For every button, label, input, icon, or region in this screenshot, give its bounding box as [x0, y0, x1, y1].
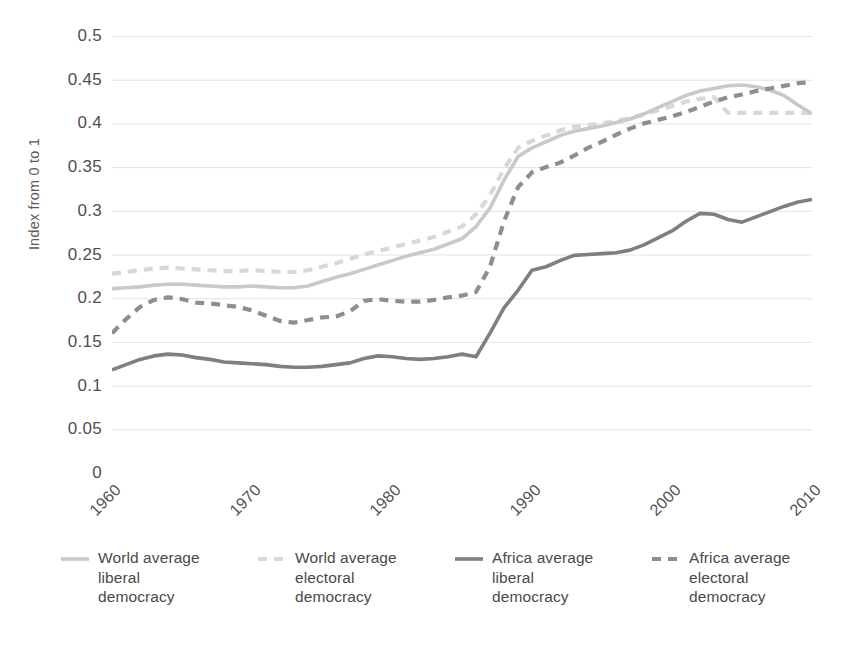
legend-item[interactable]: Africa averageelectoraldemocracy [651, 548, 848, 607]
y-axis-tick-label: 0.45 [40, 70, 102, 90]
y-axis-tick-label: 0 [40, 463, 102, 483]
x-axis-tick-label: 2000 [638, 481, 685, 528]
legend-label-line: democracy [295, 587, 397, 607]
legend-item[interactable]: World averageelectoraldemocracy [257, 548, 454, 607]
y-axis-tick-label: 0.15 [40, 332, 102, 352]
legend-label-line: electoral [295, 568, 397, 588]
legend-label-line: democracy [689, 587, 790, 607]
dashed-line-swatch [651, 550, 681, 568]
x-axis-tick-label: 2010 [778, 481, 825, 528]
legend-label-line: liberal [492, 568, 593, 588]
y-axis-tick-label: 0.25 [40, 245, 102, 265]
y-axis-tick-label: 0.4 [40, 113, 102, 133]
dashed-line-swatch [257, 550, 287, 568]
series-line [112, 85, 812, 289]
plot-area [112, 36, 812, 473]
solid-line-swatch [60, 550, 90, 568]
legend-item[interactable]: World averageliberaldemocracy [60, 548, 257, 607]
y-axis-tick-label: 0.05 [40, 419, 102, 439]
legend-item-label: Africa averageelectoraldemocracy [689, 548, 790, 607]
legend-label-line: World average [295, 548, 397, 568]
legend-label-line: democracy [492, 587, 593, 607]
x-axis-tick-label: 1980 [358, 481, 405, 528]
plot-svg [112, 36, 812, 473]
y-axis-tick-label: 0.5 [40, 26, 102, 46]
legend-label-line: Africa average [689, 548, 790, 568]
chart-container: Index from 0 to 1 00.050.10.150.20.250.3… [0, 0, 848, 648]
legend-label-line: democracy [98, 587, 200, 607]
y-axis-tick-label: 0.35 [40, 157, 102, 177]
legend-item-label: Africa averageliberaldemocracy [492, 548, 593, 607]
legend-item-label: World averageliberaldemocracy [98, 548, 200, 607]
legend-label-line: liberal [98, 568, 200, 588]
series-line [112, 82, 812, 333]
legend-label-line: Africa average [492, 548, 593, 568]
legend-label-line: World average [98, 548, 200, 568]
y-axis-tick-label: 0.3 [40, 201, 102, 221]
chart-legend: World averageliberaldemocracyWorld avera… [60, 548, 848, 628]
y-axis-tick-label: 0.1 [40, 376, 102, 396]
y-axis-tick-label: 0.2 [40, 288, 102, 308]
x-axis-tick-label: 1970 [218, 481, 265, 528]
legend-label-line: electoral [689, 568, 790, 588]
x-axis-tick-label: 1990 [498, 481, 545, 528]
solid-line-swatch [454, 550, 484, 568]
legend-item-label: World averageelectoraldemocracy [295, 548, 397, 607]
legend-item[interactable]: Africa averageliberaldemocracy [454, 548, 651, 607]
